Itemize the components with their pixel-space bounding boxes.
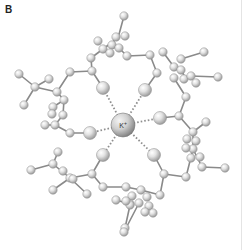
carbon-atom (59, 111, 67, 119)
carbon-atom (51, 121, 59, 129)
carbon-atom (53, 88, 61, 96)
carbon-atom (156, 191, 164, 199)
carbon-atom (120, 228, 128, 236)
carbon-atom (143, 193, 151, 201)
carbon-atom (135, 199, 143, 207)
carbon-atom (183, 135, 191, 143)
oxygen-atom (139, 84, 152, 97)
carbon-atom (88, 67, 96, 75)
carbon-atom (83, 190, 91, 198)
carbon-atom (20, 101, 28, 109)
carbon-atom (202, 118, 210, 126)
carbon-atom (45, 75, 53, 83)
potassium-ion: K+ (111, 113, 135, 137)
carbon-atom (49, 160, 57, 168)
carbon-atom (177, 66, 185, 74)
carbon-atom (122, 183, 130, 191)
carbon-atom (196, 153, 204, 161)
carbon-atom (94, 37, 102, 45)
carbon-atom (106, 49, 114, 57)
carbon-atom (198, 163, 206, 171)
carbon-atom (87, 54, 95, 62)
carbon-atom (149, 209, 157, 217)
carbon-atom (141, 208, 149, 216)
carbon-atom (200, 48, 208, 56)
carbon-atom (170, 74, 178, 82)
oxygen-atom (97, 149, 110, 162)
carbon-atom (182, 93, 190, 101)
oxygen-atom (154, 112, 167, 125)
carbon-atom (137, 186, 145, 194)
carbon-atom (192, 79, 200, 87)
carbon-atom (66, 68, 74, 76)
oxygen-atom (97, 82, 110, 95)
oxygen-atom (148, 149, 161, 162)
carbon-atom (112, 196, 120, 204)
carbon-atom (49, 186, 57, 194)
carbon-atom (120, 12, 128, 20)
carbon-atom (115, 44, 123, 52)
carbon-atom (177, 55, 185, 63)
carbon-atom (15, 70, 23, 78)
carbon-atom (99, 183, 107, 191)
carbon-atom (187, 72, 195, 80)
carbon-atom (66, 129, 74, 137)
carbon-atom (214, 73, 222, 81)
carbon-atom (122, 197, 130, 205)
carbon-atom (88, 170, 96, 178)
carbon-atom (175, 112, 183, 120)
carbon-atom (112, 33, 120, 41)
carbon-atom (60, 96, 68, 104)
carbon-atom (189, 128, 197, 136)
carbon-atom (159, 48, 167, 56)
carbon-atom (182, 173, 190, 181)
carbon-atom (54, 148, 62, 156)
oxygen-atom (84, 127, 97, 140)
carbon-atom (160, 170, 168, 178)
carbon-atom (192, 137, 200, 145)
carbon-atom (146, 51, 154, 59)
carbon-atom (41, 121, 49, 129)
carbon-atom (187, 154, 195, 162)
carbon-atom (182, 144, 190, 152)
carbon-atom (123, 52, 131, 60)
carbon-atom (59, 167, 67, 175)
carbon-atom (69, 175, 77, 183)
carbon-atom (48, 110, 56, 118)
carbon-atom (31, 83, 39, 91)
carbon-atom (27, 166, 35, 174)
carbon-atom (153, 69, 161, 77)
carbon-atom (221, 164, 229, 172)
carbon-atom (121, 32, 129, 40)
molecular-structure-diagram: K+ (0, 0, 243, 250)
